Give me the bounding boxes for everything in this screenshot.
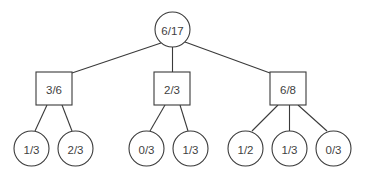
node-internal-right[interactable]: 6/8 xyxy=(270,72,306,105)
node-leaf-6-label: 1/3 xyxy=(282,144,298,156)
edge-root-to-left xyxy=(72,43,161,73)
node-leaf-7-label: 0/3 xyxy=(326,144,342,156)
edge-middle-to-leaf3 xyxy=(150,105,165,131)
edge-right-to-leaf5 xyxy=(252,105,278,131)
node-leaf-2[interactable]: 2/3 xyxy=(58,131,93,166)
node-leaf-5[interactable]: 1/2 xyxy=(228,131,263,166)
node-leaf-4-label: 1/3 xyxy=(183,144,199,156)
node-internal-middle[interactable]: 2/3 xyxy=(154,72,190,105)
edge-group-leaves xyxy=(35,105,327,131)
node-internal-right-label: 6/8 xyxy=(280,84,296,96)
node-leaf-3-label: 0/3 xyxy=(139,144,155,156)
node-leaf-5-label: 1/2 xyxy=(238,144,254,156)
tree-diagram: 6/17 3/6 2/3 6/8 1/3 2/3 0/3 1/3 1/2 1/3… xyxy=(0,0,370,181)
node-internal-left-label: 3/6 xyxy=(46,84,62,96)
node-internal-left[interactable]: 3/6 xyxy=(36,72,72,105)
edge-right-to-leaf7 xyxy=(298,105,327,131)
edge-root-to-right xyxy=(185,42,270,73)
node-root-label: 6/17 xyxy=(161,25,183,37)
node-leaf-4[interactable]: 1/3 xyxy=(173,131,208,166)
edge-middle-to-leaf4 xyxy=(180,105,188,131)
edge-left-to-leaf2 xyxy=(62,105,72,131)
node-internal-middle-label: 2/3 xyxy=(164,84,180,96)
node-leaf-7[interactable]: 0/3 xyxy=(316,131,351,166)
node-leaf-3[interactable]: 0/3 xyxy=(129,131,164,166)
node-root[interactable]: 6/17 xyxy=(155,12,190,47)
node-leaf-6[interactable]: 1/3 xyxy=(272,131,307,166)
node-leaf-1[interactable]: 1/3 xyxy=(14,131,49,166)
node-leaf-2-label: 2/3 xyxy=(68,144,84,156)
node-leaf-1-label: 1/3 xyxy=(24,144,40,156)
edge-left-to-leaf1 xyxy=(35,105,47,131)
